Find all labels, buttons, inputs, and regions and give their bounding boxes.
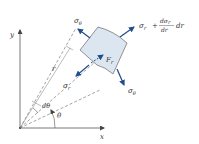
radius-tick-top xyxy=(66,46,73,50)
dtheta-label: dθ xyxy=(42,102,50,110)
dtheta-arc xyxy=(33,108,38,113)
theta-label: θ xyxy=(57,112,62,120)
radial-line-upper xyxy=(20,28,76,128)
sigma-r-plus-arrow xyxy=(120,27,134,37)
sigma-theta-bottom-arrow xyxy=(117,69,124,85)
sigma-r-plus-expression: σr + dσr dr dr xyxy=(139,17,184,33)
svg-text:σr: σr xyxy=(139,22,147,31)
sigma-r-arrow xyxy=(76,65,89,76)
sigma-theta-top-label: σθ xyxy=(74,17,82,26)
polar-stress-element-diagram: x y σθ σr + dσr dr dr Fr σr σθ r dθ θ xyxy=(0,0,199,144)
sigma-theta-top-arrow xyxy=(78,29,90,38)
y-axis-label: y xyxy=(9,31,15,39)
svg-text:dσr: dσr xyxy=(160,17,171,25)
svg-text:dr: dr xyxy=(176,22,184,30)
svg-text:+: + xyxy=(152,22,158,30)
sigma-r-label: σr xyxy=(63,82,71,91)
sigma-theta-bottom-label: σθ xyxy=(128,87,136,96)
x-axis-label: x xyxy=(100,133,104,141)
svg-text:dr: dr xyxy=(161,26,169,33)
